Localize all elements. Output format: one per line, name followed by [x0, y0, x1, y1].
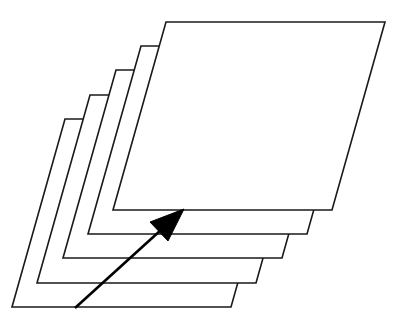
- layer-stack-diagram: [0, 0, 405, 329]
- sheet-stack: [12, 22, 385, 307]
